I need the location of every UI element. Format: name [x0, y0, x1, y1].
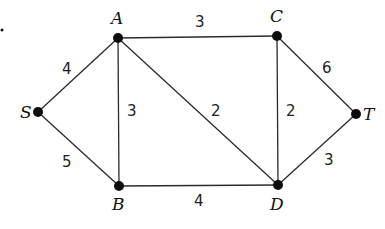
- edge-weight-a-c: 3: [195, 13, 205, 31]
- edge-a-d: [118, 38, 278, 185]
- node-label-c: C: [270, 6, 283, 26]
- node-t: [351, 109, 361, 119]
- node-label-t: T: [363, 104, 376, 124]
- edge-d-t: [278, 114, 356, 185]
- edge-weight-c-d: 2: [286, 102, 296, 120]
- node-label-a: A: [109, 8, 123, 28]
- graph-diagram: 453322463 SABCDT: [0, 0, 385, 229]
- edge-weight-c-t: 6: [322, 59, 332, 77]
- edge-weight-s-a: 4: [62, 60, 72, 78]
- edge-b-d: [119, 185, 278, 186]
- edge-s-b: [38, 112, 119, 186]
- edge-weight-a-b: 3: [127, 102, 137, 120]
- node-label-d: D: [269, 194, 284, 214]
- edge-weight-b-d: 4: [194, 192, 204, 210]
- edge-c-d: [277, 36, 278, 185]
- edge-weight-a-d: 2: [211, 102, 221, 120]
- node-d: [273, 180, 283, 190]
- edge-s-a: [38, 38, 118, 112]
- edges: [38, 36, 356, 186]
- node-c: [272, 31, 282, 41]
- edge-weight-s-b: 5: [62, 153, 72, 171]
- edge-a-b: [118, 38, 119, 186]
- edge-weight-d-t: 3: [324, 151, 334, 169]
- edge-a-c: [118, 36, 277, 38]
- node-b: [114, 181, 124, 191]
- stray-dot: [1, 29, 4, 32]
- node-label-s: S: [20, 102, 32, 122]
- node-s: [33, 107, 43, 117]
- node-label-b: B: [111, 194, 125, 214]
- node-a: [113, 33, 123, 43]
